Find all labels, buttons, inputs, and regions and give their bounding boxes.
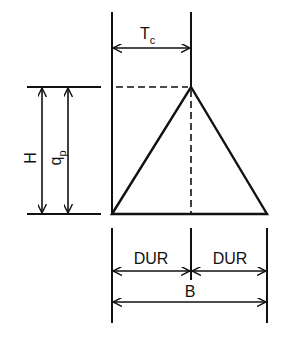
b-label: B xyxy=(185,283,196,300)
triangular-hydrograph-diagram: Tc H qp DUR DUR B xyxy=(0,0,291,340)
dur-left-label: DUR xyxy=(134,250,169,267)
dur-right-label: DUR xyxy=(213,250,248,267)
hydrograph-triangle xyxy=(112,87,267,214)
qp-label: qp xyxy=(47,150,68,165)
h-label: H xyxy=(22,152,39,164)
tc-label: Tc xyxy=(140,25,156,46)
